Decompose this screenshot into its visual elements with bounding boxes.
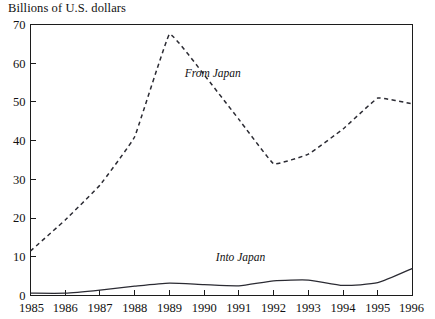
x-tick-label-1995: 1995 [365, 301, 390, 315]
x-tick-label-1992: 1992 [261, 301, 286, 315]
annotation-from-japan: From Japan [184, 67, 241, 80]
y-tick-label-60: 60 [13, 57, 26, 71]
x-tick-label-1994: 1994 [331, 301, 357, 315]
y-tick-label-10: 10 [13, 250, 26, 264]
x-axis-ticks-group [65, 290, 378, 296]
x-tick-label-1991: 1991 [226, 301, 251, 315]
y-tick-label-70: 70 [13, 18, 26, 32]
x-tick-label-1986: 1986 [53, 301, 78, 315]
y-tick-label-40: 40 [13, 134, 26, 148]
x-tick-label-1985: 1985 [19, 301, 44, 315]
y-axis-tick-labels: 010203040506070 [13, 18, 26, 303]
x-tick-label-1993: 1993 [296, 301, 321, 315]
x-axis-tick-labels: 1985198619871988198919901991199219931994… [19, 301, 424, 315]
chart-container: Billions of U.S. dollars 010203040506070… [0, 0, 435, 319]
y-tick-label-30: 30 [13, 173, 26, 187]
series-line-into-japan [31, 268, 413, 293]
annotation-into-japan: Into Japan [215, 251, 266, 264]
y-tick-label-20: 20 [13, 211, 26, 225]
x-tick-label-1989: 1989 [157, 301, 182, 315]
x-tick-label-1990: 1990 [192, 301, 217, 315]
series-annotations: From JapanInto Japan [184, 67, 266, 265]
x-tick-label-1988: 1988 [122, 301, 147, 315]
x-tick-label-1996: 1996 [399, 301, 424, 315]
y-tick-label-50: 50 [13, 95, 26, 109]
x-tick-label-1987: 1987 [87, 301, 112, 315]
chart-plot-area: 010203040506070 198519861987198819891990… [0, 0, 435, 319]
y-axis-ticks-group [31, 63, 37, 257]
